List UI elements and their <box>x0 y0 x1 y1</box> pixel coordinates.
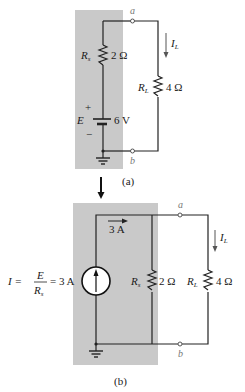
terminal-b-label: b <box>178 348 183 359</box>
rl-label-b: RL <box>186 275 198 289</box>
load-current-arrow-icon <box>213 230 218 252</box>
svg-text:Rs: Rs <box>33 284 44 298</box>
wire-top-right-b <box>182 215 208 270</box>
resistor-rl-a <box>154 76 162 96</box>
battery-minus-label: − <box>86 128 92 140</box>
svg-text:E: E <box>36 269 44 281</box>
terminal-a-label: a <box>178 199 183 210</box>
terminal-b-icon <box>178 342 182 346</box>
terminal-b-label: b <box>130 155 135 166</box>
caption-a: (a) <box>122 175 135 188</box>
branch-current-label: 3 A <box>109 223 125 235</box>
rs-value-a: 2 Ω <box>111 49 127 61</box>
rl-value-a: 4 Ω <box>166 81 182 93</box>
wire-top-right-a <box>134 21 158 76</box>
terminal-a-label: a <box>130 5 135 16</box>
terminal-a-icon <box>178 213 182 217</box>
load-current-arrow-icon <box>164 33 169 58</box>
panel-a: a b IL Rs 2 Ω RL 4 Ω + E − 6 V (a) <box>75 5 182 188</box>
rl-value-b: 4 Ω <box>216 275 232 287</box>
terminal-a-icon <box>131 19 135 23</box>
resistor-rl-b <box>204 270 212 290</box>
load-current-label: IL <box>170 37 179 51</box>
current-source-equation: I = E Rs = 3 A <box>7 269 75 298</box>
caption-b: (b) <box>114 375 127 388</box>
rl-label-a: RL <box>137 81 149 95</box>
current-source-icon <box>82 267 110 295</box>
battery-value-label: 6 V <box>114 114 130 126</box>
circuit-diagram: a b IL Rs 2 Ω RL 4 Ω + E − 6 V (a) <box>0 0 245 392</box>
wire-bottom-right-b <box>182 292 208 344</box>
svg-text:= 3 A: = 3 A <box>50 275 75 287</box>
battery-plus-label: + <box>85 101 91 113</box>
rs-value-b: 2 Ω <box>159 275 175 287</box>
panel-b: a b 3 A IL Rs 2 Ω RL 4 Ω I = E Rs = 3 A … <box>7 199 232 388</box>
source-shaded-region-a <box>75 10 123 169</box>
svg-text:I =: I = <box>7 275 22 287</box>
terminal-b-icon <box>131 149 135 153</box>
battery-e-label: E <box>76 114 84 126</box>
transform-arrow-icon <box>98 177 105 199</box>
load-current-label: IL <box>219 231 228 245</box>
wire-bottom-right-a <box>134 97 158 151</box>
